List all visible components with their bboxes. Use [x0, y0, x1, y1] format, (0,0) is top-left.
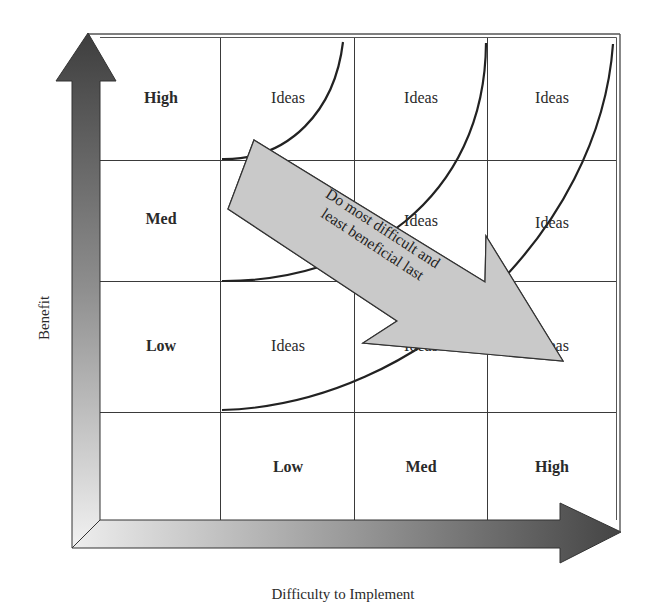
y-axis-label: Benefit	[36, 296, 53, 340]
column-header-low: Low	[273, 458, 303, 476]
cell-ideas: Ideas	[535, 89, 569, 107]
cell-ideas: Ideas	[535, 214, 569, 232]
column-header-high: High	[535, 458, 569, 476]
column-header-med: Med	[405, 458, 436, 476]
benefit-difficulty-matrix: High Med Low Low Med High Ideas Ideas Id…	[0, 0, 654, 612]
benefit-axis-arrow	[56, 33, 116, 548]
row-header-med: Med	[145, 210, 176, 228]
cell-ideas: Ideas	[271, 337, 305, 355]
row-header-low: Low	[146, 337, 176, 355]
row-header-high: High	[144, 89, 178, 107]
cell-ideas: Ideas	[404, 89, 438, 107]
difficulty-axis-arrow	[72, 503, 621, 563]
x-axis-label: Difficulty to Implement	[271, 586, 414, 603]
cell-ideas: Ideas	[271, 212, 305, 230]
cell-ideas: Ideas	[404, 212, 438, 230]
cell-ideas: Ideas	[404, 337, 438, 355]
cell-ideas: Ideas	[535, 337, 569, 355]
cell-ideas: Ideas	[271, 89, 305, 107]
